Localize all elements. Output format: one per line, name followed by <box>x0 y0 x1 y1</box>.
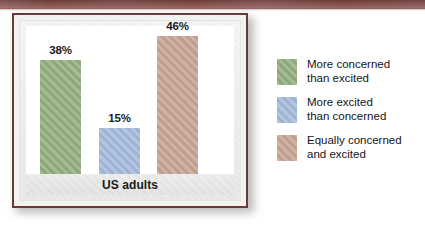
bar-value-label: 15% <box>99 112 140 124</box>
legend-label-line1: More concerned <box>307 58 390 72</box>
bar-value-label: 46% <box>157 20 198 32</box>
legend-label-line1: Equally concerned <box>307 134 402 148</box>
bar-more-concerned <box>40 60 81 174</box>
legend-label-line2: than excited <box>307 72 390 86</box>
bar-group-more-concerned: 38% <box>40 26 81 174</box>
chart-panel-inner: 38% 15% 46% US adults <box>19 20 241 201</box>
legend-label-equally-concerned: Equally concerned and excited <box>307 134 402 161</box>
top-band-shadow <box>0 8 425 11</box>
legend-swatch-blue <box>277 97 297 123</box>
legend-label-line2: than concerned <box>307 110 386 124</box>
legend-swatch-tan <box>277 135 297 161</box>
legend-label-line2: and excited <box>307 148 402 162</box>
legend-item-more-excited: More excited than concerned <box>277 96 422 123</box>
chart-legend: More concerned than excited More excited… <box>277 58 422 172</box>
chart-panel: 38% 15% 46% US adults <box>12 13 248 208</box>
chart-screenshot: 38% 15% 46% US adults <box>0 0 425 230</box>
bar-series-container: 38% 15% 46% <box>26 26 234 174</box>
bar-group-more-excited: 15% <box>99 26 140 174</box>
plot-area: 38% 15% 46% <box>26 26 234 174</box>
bar-more-excited <box>99 128 140 174</box>
legend-label-more-excited: More excited than concerned <box>307 96 386 123</box>
bar-equally-concerned <box>157 36 198 174</box>
bar-group-equally: 46% <box>157 26 198 174</box>
bar-value-label: 38% <box>40 44 81 56</box>
legend-label-more-concerned: More concerned than excited <box>307 58 390 85</box>
category-axis-band: US adults <box>26 174 234 195</box>
legend-item-more-concerned: More concerned than excited <box>277 58 422 85</box>
category-label: US adults <box>102 178 158 192</box>
legend-item-equally-concerned: Equally concerned and excited <box>277 134 422 161</box>
legend-label-line1: More excited <box>307 96 386 110</box>
legend-swatch-green <box>277 59 297 85</box>
